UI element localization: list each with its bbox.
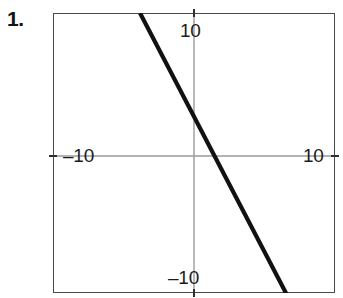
plotted-line [140, 13, 287, 295]
coordinate-plane-graph [53, 13, 335, 293]
x-axis-right-label: 10 [303, 146, 324, 165]
problem-number-label: 1. [7, 8, 24, 29]
linear-graph-figure: 1. 10 –10 10 –10 [0, 0, 343, 298]
y-axis-bottom-label: –10 [168, 268, 199, 287]
x-axis-left-label: –10 [63, 146, 94, 165]
y-axis-top-label: 10 [180, 21, 201, 40]
